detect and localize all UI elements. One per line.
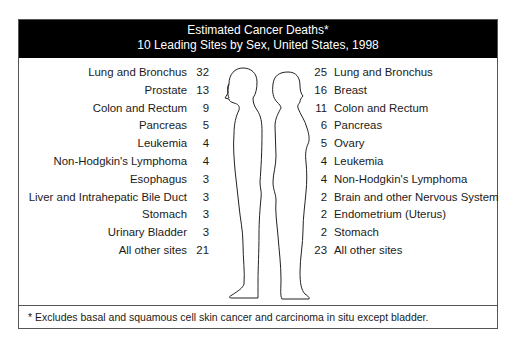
female-row: 2Brain and other Nervous System: [311, 189, 501, 207]
female-site-label: Ovary: [327, 135, 364, 153]
male-site-label: Leukemia: [19, 135, 187, 153]
female-site-value: 11: [311, 100, 327, 118]
male-site-label: Lung and Bronchus: [19, 64, 187, 82]
male-site-value: 3: [187, 171, 209, 189]
male-site-value: 32: [187, 64, 209, 82]
male-site-value: 3: [187, 224, 209, 242]
male-site-label: Stomach: [19, 206, 187, 224]
female-list: 25Lung and Bronchus 16Breast 11Colon and…: [311, 64, 501, 260]
male-row: Pancreas5: [19, 117, 224, 135]
male-site-value: 4: [187, 135, 209, 153]
male-site-value: 21: [187, 242, 209, 260]
female-site-label: Leukemia: [327, 153, 383, 171]
male-site-value: 3: [187, 206, 209, 224]
female-row: 4Leukemia: [311, 153, 501, 171]
female-site-value: 2: [311, 189, 327, 207]
female-site-value: 16: [311, 82, 327, 100]
chart-frame: Estimated Cancer Deaths* 10 Leading Site…: [18, 19, 498, 329]
female-row: 16Breast: [311, 82, 501, 100]
male-site-label: All other sites: [19, 242, 187, 260]
male-list: Lung and Bronchus32 Prostate13 Colon and…: [19, 64, 224, 260]
male-row: Urinary Bladder3: [19, 224, 224, 242]
female-site-label: Stomach: [327, 224, 379, 242]
female-row: 2Stomach: [311, 224, 501, 242]
body-figures: [209, 58, 319, 306]
male-site-label: Liver and Intrahepatic Bile Duct: [19, 189, 187, 207]
male-row: Non-Hodgkin's Lymphoma4: [19, 153, 224, 171]
female-site-value: 25: [311, 64, 327, 82]
male-row: Prostate13: [19, 82, 224, 100]
male-row: Lung and Bronchus32: [19, 64, 224, 82]
female-row: 25Lung and Bronchus: [311, 64, 501, 82]
male-site-label: Colon and Rectum: [19, 100, 187, 118]
female-site-value: 4: [311, 153, 327, 171]
chart-title: Estimated Cancer Deaths*: [19, 23, 497, 38]
female-site-value: 23: [311, 242, 327, 260]
female-site-value: 4: [311, 171, 327, 189]
male-row: All other sites21: [19, 242, 224, 260]
female-site-label: Non-Hodgkin's Lymphoma: [327, 171, 467, 189]
female-site-label: Lung and Bronchus: [327, 64, 433, 82]
male-row: Liver and Intrahepatic Bile Duct3: [19, 189, 224, 207]
female-row: 2Endometrium (Uterus): [311, 206, 501, 224]
female-row: 23All other sites: [311, 242, 501, 260]
male-site-value: 4: [187, 153, 209, 171]
footnote: * Excludes basal and squamous cell skin …: [19, 305, 497, 329]
female-site-label: All other sites: [327, 242, 402, 260]
male-site-value: 5: [187, 117, 209, 135]
female-site-value: 5: [311, 135, 327, 153]
female-site-value: 6: [311, 117, 327, 135]
female-site-label: Endometrium (Uterus): [327, 206, 446, 224]
chart-header: Estimated Cancer Deaths* 10 Leading Site…: [19, 20, 497, 58]
female-site-value: 2: [311, 224, 327, 242]
male-site-label: Prostate: [19, 82, 187, 100]
female-site-label: Pancreas: [327, 117, 382, 135]
male-site-value: 9: [187, 100, 209, 118]
female-site-label: Colon and Rectum: [327, 100, 428, 118]
female-row: 4Non-Hodgkin's Lymphoma: [311, 171, 501, 189]
chart-subtitle: 10 Leading Sites by Sex, United States, …: [19, 38, 497, 53]
female-site-value: 2: [311, 206, 327, 224]
female-site-label: Brain and other Nervous System: [327, 189, 499, 207]
male-row: Stomach3: [19, 206, 224, 224]
male-row: Colon and Rectum9: [19, 100, 224, 118]
female-row: 11Colon and Rectum: [311, 100, 501, 118]
male-site-label: Urinary Bladder: [19, 224, 187, 242]
female-row: 6Pancreas: [311, 117, 501, 135]
male-site-value: 13: [187, 82, 209, 100]
female-figure-icon: [273, 72, 310, 299]
male-site-label: Esophagus: [19, 171, 187, 189]
male-figure-icon: [225, 68, 262, 298]
male-row: Leukemia4: [19, 135, 224, 153]
male-site-value: 3: [187, 189, 209, 207]
female-row: 5Ovary: [311, 135, 501, 153]
male-row: Esophagus3: [19, 171, 224, 189]
male-site-label: Non-Hodgkin's Lymphoma: [19, 153, 187, 171]
female-site-label: Breast: [327, 82, 367, 100]
male-site-label: Pancreas: [19, 117, 187, 135]
